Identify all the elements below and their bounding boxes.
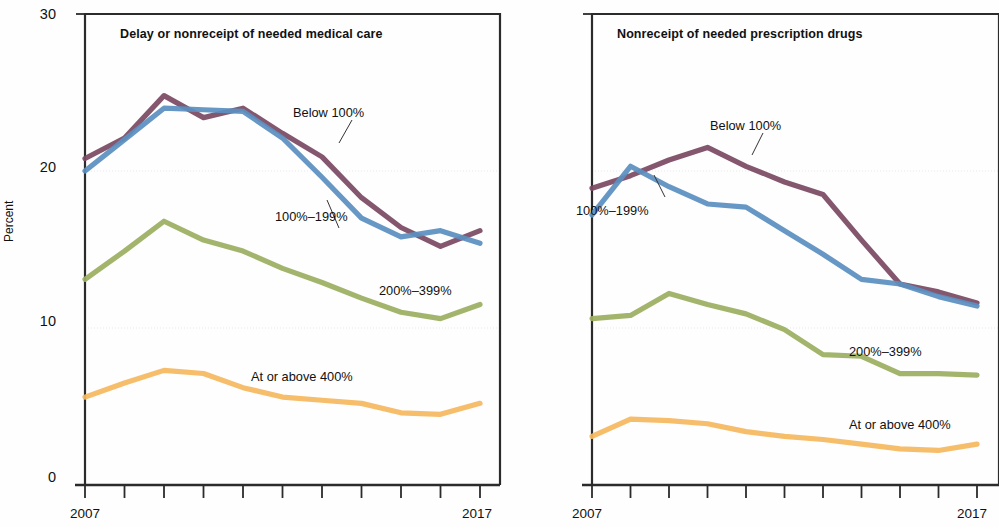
y-tick-20: 20	[20, 160, 56, 175]
chart-title-medical-care: Delay or nonreceipt of needed medical ca…	[120, 27, 383, 41]
plot-frame	[592, 14, 999, 485]
series-label-200-399: 200%–399%	[379, 283, 452, 298]
y-tick-10: 10	[20, 314, 56, 329]
x-tick-2007: 2007	[70, 506, 100, 521]
series-label-200-399: 200%–399%	[849, 344, 922, 359]
line-chart-prescription-drugs	[520, 0, 999, 527]
chart-figure: Delay or nonreceipt of needed medical ca…	[0, 0, 999, 527]
line-chart-medical-care	[0, 0, 520, 527]
y-tick-30: 30	[20, 7, 56, 22]
series-label-below-100: Below 100%	[293, 105, 364, 120]
x-tick-2017: 2017	[957, 506, 987, 521]
series-label-100-199: 100%–199%	[275, 209, 348, 224]
series-label-at-or-above-400: At or above 400%	[251, 369, 353, 384]
x-tick-2007: 2007	[572, 506, 602, 521]
series-label-below-100: Below 100%	[710, 118, 781, 133]
series-label-100-199: 100%–199%	[576, 203, 649, 218]
y-tick-0: 0	[20, 470, 56, 485]
x-tick-2017: 2017	[462, 506, 492, 521]
data-series-100-199-	[592, 166, 977, 306]
y-axis-title: Percent	[2, 162, 16, 242]
data-series-200-399-	[592, 293, 977, 375]
annotation-leader-0	[752, 133, 763, 155]
series-label-at-or-above-400: At or above 400%	[849, 417, 951, 432]
chart-panel-medical-care: Delay or nonreceipt of needed medical ca…	[0, 0, 520, 527]
annotation-leader-0	[339, 120, 352, 143]
chart-panel-prescription-drugs: Nonreceipt of needed prescription drugs …	[520, 0, 999, 527]
chart-title-prescription-drugs: Nonreceipt of needed prescription drugs	[617, 27, 863, 41]
